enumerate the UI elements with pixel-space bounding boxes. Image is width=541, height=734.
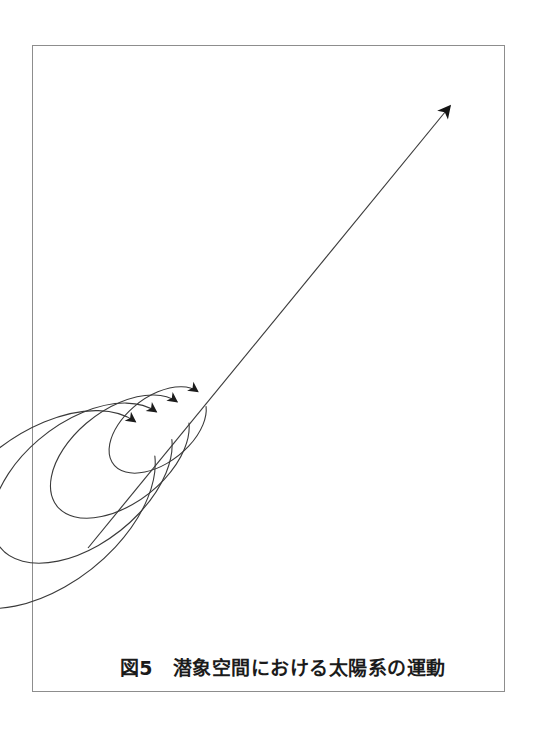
figure-caption-text: 図5 潜象空間における太陽系の運動 — [120, 657, 446, 679]
figure-caption: 図5 潜象空間における太陽系の運動 — [32, 626, 505, 710]
figure-frame — [32, 45, 505, 692]
figure-page: 図5 潜象空間における太陽系の運動 — [0, 0, 541, 734]
